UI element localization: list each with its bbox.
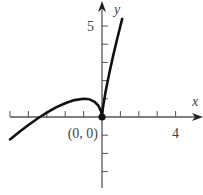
x-axis-label: x bbox=[191, 94, 199, 109]
y-tick-label-5: 5 bbox=[87, 19, 94, 34]
ticks bbox=[10, 26, 176, 172]
function-curve bbox=[10, 19, 122, 139]
axes bbox=[10, 1, 203, 188]
x-tick-label-4: 4 bbox=[172, 126, 179, 141]
function-graph: x y 4 5 (0, 0) bbox=[0, 0, 203, 195]
y-axis-label: y bbox=[112, 2, 121, 17]
origin-point bbox=[98, 113, 105, 120]
origin-annotation: (0, 0) bbox=[68, 126, 99, 142]
